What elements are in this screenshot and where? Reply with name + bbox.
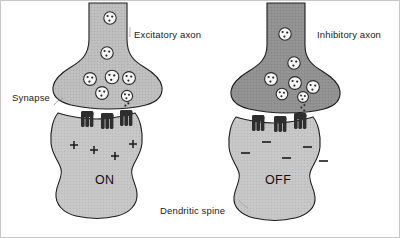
receptor-channel xyxy=(294,113,306,129)
receptor-channel xyxy=(274,116,286,132)
vesicle xyxy=(265,73,278,86)
vesicle xyxy=(123,72,136,85)
inhibitory-dendritic-spine xyxy=(229,117,320,220)
vesicle xyxy=(96,87,109,100)
excitatory-dendritic-spine xyxy=(51,113,142,218)
vesicle xyxy=(101,47,113,59)
vesicle xyxy=(289,77,302,90)
synapse-label: Synapse xyxy=(12,92,50,103)
vesicle xyxy=(307,81,320,94)
inhibitory-axon-label: Inhibitory axon xyxy=(317,29,381,40)
vesicle xyxy=(105,70,119,84)
vesicle xyxy=(276,88,288,100)
state-label-off: OFF xyxy=(265,173,291,187)
synapse-diagram: Excitatory axon Inhibitory axon Synapse … xyxy=(0,0,400,238)
receptor-channel xyxy=(252,115,264,131)
receptor-channel xyxy=(120,110,132,126)
receptor-channel xyxy=(81,111,93,127)
excitatory-axon-label: Excitatory axon xyxy=(134,29,201,40)
vesicle xyxy=(84,73,97,86)
receptor-channel xyxy=(101,113,113,129)
dendritic-spine-label: Dendritic spine xyxy=(160,205,225,216)
state-label-on: ON xyxy=(95,173,115,187)
vesicle xyxy=(104,12,116,24)
vesicle xyxy=(279,28,291,40)
vesicle xyxy=(288,57,300,69)
